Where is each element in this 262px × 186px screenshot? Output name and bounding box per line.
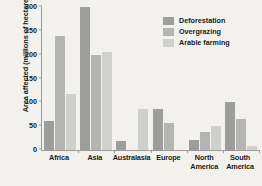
y-axis-tick-label: 200 [25,49,37,58]
y-axis-tick: 200 [25,53,42,54]
legend-label: Deforestation [179,16,225,25]
legend-label: Overgrazing [179,27,221,36]
legend-swatch [163,39,174,47]
bar[interactable] [164,123,174,150]
x-axis-label: Australasia [113,153,151,171]
bar[interactable] [138,109,148,150]
y-axis-tick-label: 50 [29,121,37,130]
bar[interactable] [211,126,221,150]
bar[interactable] [153,109,163,150]
legend-item[interactable]: Arable farming [163,37,230,48]
bar[interactable] [225,102,235,150]
bar[interactable] [189,140,199,150]
bar-group [78,7,114,150]
x-axis-labels: AfricaAsiaAustralasiaEuropeNorthAmericaS… [41,153,258,171]
x-axis-label: Asia [77,153,113,171]
bar-group [114,7,150,150]
x-axis-tick-mark [259,150,260,153]
legend-item[interactable]: Overgrazing [163,26,230,37]
x-axis-label: SouthAmerica [222,153,258,171]
bar-chart: Area affected (millions of hectares) 050… [0,0,262,186]
bar[interactable] [116,141,126,150]
y-axis-tick: 50 [29,125,42,126]
bar[interactable] [55,36,65,150]
chart-legend: DeforestationOvergrazingArable farming [163,15,230,48]
bar[interactable] [236,119,246,150]
legend-swatch [163,28,174,36]
bar[interactable] [200,132,210,150]
bar[interactable] [80,7,90,150]
bar-group [42,7,78,150]
y-axis-tick-label: 300 [25,2,37,11]
y-axis-tick-label: 0 [33,145,37,154]
y-axis-tick: 250 [25,29,42,30]
y-axis-tick: 150 [25,77,42,78]
y-axis-tick-label: 250 [25,25,37,34]
bar[interactable] [102,52,112,150]
y-axis-tick: 100 [25,101,42,102]
x-axis-label: Europe [150,153,186,171]
x-axis-label: NorthAmerica [186,153,222,171]
bar[interactable] [66,94,76,150]
legend-item[interactable]: Deforestation [163,15,230,26]
y-axis-tick: 300 [25,6,42,7]
legend-label: Arable farming [179,38,230,47]
y-axis-tick-label: 100 [25,97,37,106]
bar[interactable] [91,55,101,150]
x-axis-label: Africa [41,153,77,171]
y-axis-tick: 0 [33,149,42,150]
legend-swatch [163,17,174,25]
bar[interactable] [247,146,257,150]
bar[interactable] [44,121,54,150]
y-axis-tick-label: 150 [25,73,37,82]
